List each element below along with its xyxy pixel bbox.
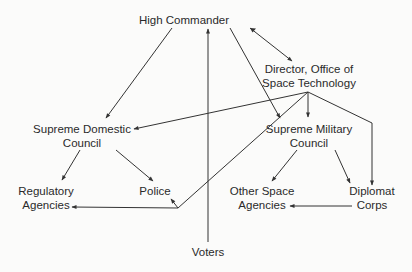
node-high-commander: High Commander bbox=[139, 13, 229, 27]
label-line-2: Council bbox=[266, 136, 352, 150]
label-line-2: Agencies bbox=[230, 198, 295, 212]
node-director-space-technology: Director, Office of Space Technology bbox=[262, 62, 356, 90]
edge-hc-to-director bbox=[250, 28, 292, 61]
node-other-space-agencies: Other Space Agencies bbox=[230, 184, 295, 212]
label-line-1: Director, Office of bbox=[262, 62, 356, 76]
label: Police bbox=[139, 184, 170, 198]
label: Voters bbox=[192, 245, 225, 259]
edge-domestic-to-police bbox=[116, 150, 153, 181]
label-line-2: Space Technology bbox=[262, 76, 356, 90]
label-line-2: Corps bbox=[349, 198, 394, 212]
label-line-1: Regulatory bbox=[18, 184, 74, 198]
label-line-2: Council bbox=[33, 136, 131, 150]
edge-junction-to-regulatory bbox=[72, 207, 178, 208]
label-line-1: Other Space bbox=[230, 184, 295, 198]
label-line-1: Supreme Domestic bbox=[33, 122, 131, 136]
node-regulatory-agencies: Regulatory Agencies bbox=[18, 184, 74, 212]
node-voters: Voters bbox=[192, 245, 225, 259]
label-line-2: Agencies bbox=[18, 198, 74, 212]
label-line-1: Diplomat bbox=[349, 184, 394, 198]
edge-hc-to-domestic bbox=[106, 28, 172, 118]
node-supreme-domestic-council: Supreme Domestic Council bbox=[33, 122, 131, 150]
node-diplomat-corps: Diplomat Corps bbox=[349, 184, 394, 212]
label-line-1: Supreme Military bbox=[266, 122, 352, 136]
edge-military-to-otherspace bbox=[272, 150, 297, 181]
edge-military-to-diplomat bbox=[335, 150, 350, 183]
label: High Commander bbox=[139, 13, 229, 27]
node-supreme-military-council: Supreme Military Council bbox=[266, 122, 352, 150]
edge-junction-to-police bbox=[171, 199, 178, 208]
edge-domestic-to-regulatory bbox=[62, 150, 80, 180]
node-police: Police bbox=[139, 184, 170, 198]
